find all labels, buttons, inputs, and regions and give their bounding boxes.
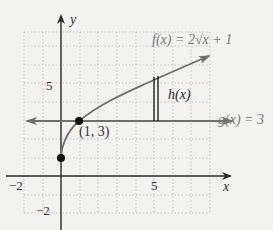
x-axis-label: x [223, 179, 229, 195]
f-label: f(x) = 2√x + 1 [152, 32, 232, 48]
y-tick-5: 5 [46, 78, 53, 94]
x-tick-5: 5 [151, 178, 158, 194]
grid [24, 32, 210, 213]
g-label: g(x) = 3 [218, 112, 264, 128]
point-0-1 [57, 154, 65, 162]
h-segment [154, 76, 158, 121]
x-tick-neg2: −2 [9, 178, 23, 194]
y-tick-neg2: −2 [36, 203, 50, 219]
h-label: h(x) [168, 87, 191, 103]
point-label-1-3: (1, 3) [79, 124, 109, 140]
y-axis-label: y [70, 12, 76, 28]
f-curve [61, 56, 209, 158]
